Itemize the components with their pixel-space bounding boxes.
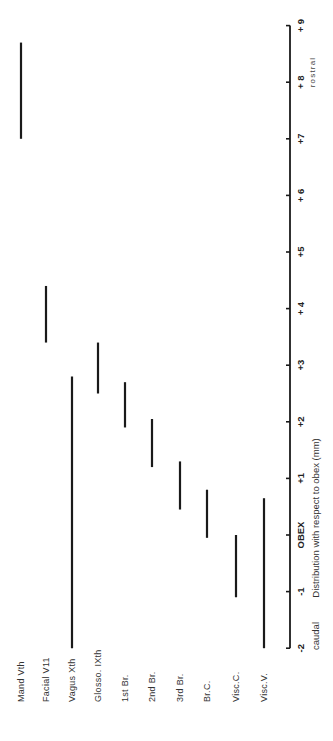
tick-label: OBEX xyxy=(295,521,306,549)
tick-label: +2 xyxy=(295,416,306,427)
category-label: Visc.C. xyxy=(231,672,241,702)
category-label: 3rd Br. xyxy=(175,673,185,702)
tick-label: + 4 xyxy=(295,301,306,315)
category-label: Vagus Xth xyxy=(67,658,77,702)
range-bars xyxy=(21,43,264,649)
category-label: Mand Vth xyxy=(16,661,26,702)
tick-label: +1 xyxy=(295,472,306,484)
category-label: Br.C. xyxy=(202,680,212,702)
tick-label: -1 xyxy=(295,587,306,596)
tick-label: -2 xyxy=(295,644,306,652)
category-label: 2nd Br. xyxy=(147,671,157,702)
tick-label: +7 xyxy=(295,133,306,144)
value-axis xyxy=(286,26,290,649)
category-label: Visc.V. xyxy=(259,673,269,702)
rostral-label: rostral xyxy=(308,57,317,88)
tick-label: +5 xyxy=(295,246,306,258)
tick-label: +3 xyxy=(295,360,306,371)
tick-label: + 9 xyxy=(295,19,306,32)
chart: Mand VthFacial V11Vagus XthGlosso. IXth1… xyxy=(0,0,333,741)
caudal-label: caudal xyxy=(310,622,321,650)
category-label: 1st Br. xyxy=(120,674,130,702)
axis-title: Distribution with respect to obex (mm) xyxy=(310,438,321,597)
tick-label: + 6 xyxy=(295,189,306,202)
tick-label: + 8 xyxy=(295,75,306,88)
category-label: Facial V11 xyxy=(41,657,51,702)
category-label: Glosso. IXth xyxy=(93,649,103,702)
tick-labels: -2-1OBEX+1+2+3+ 4+5+ 6+7+ 8+ 9 xyxy=(295,19,306,653)
category-labels: Mand VthFacial V11Vagus XthGlosso. IXth1… xyxy=(16,649,269,702)
